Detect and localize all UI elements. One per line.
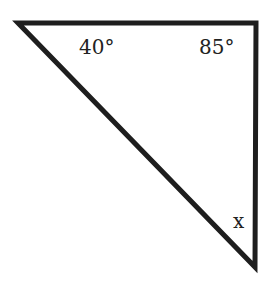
angle-label-bottom: x bbox=[233, 209, 245, 233]
triangle-diagram: 40° 85° x bbox=[0, 0, 266, 288]
triangle bbox=[18, 23, 256, 267]
angle-label-top-left: 40° bbox=[79, 35, 114, 59]
angle-label-top-right: 85° bbox=[199, 35, 234, 59]
